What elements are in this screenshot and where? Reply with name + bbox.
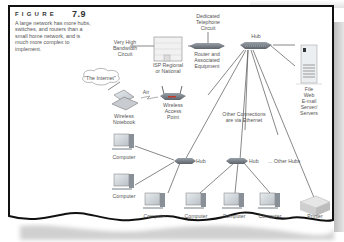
- main-hub-icon: [240, 42, 272, 49]
- internet-label: "The Internet": [80, 75, 120, 81]
- bandwidth-circuit-label: Very High Bandwidth Circuit: [108, 39, 142, 57]
- printer-label: Printer: [300, 213, 330, 219]
- router-label: Router and Associated Equipment: [186, 51, 228, 69]
- other-hubs-label: ... Other Hubs: [268, 158, 308, 164]
- other-connections-label: Other Connections are via Ethernet: [215, 111, 273, 123]
- wireless-ap-label: Wireless Access Point: [156, 102, 190, 120]
- computer-label: Computer: [106, 193, 142, 199]
- hub-main-label: Hub: [244, 33, 268, 39]
- paper-shadow: [20, 225, 334, 240]
- figure-label: FIGURE: [15, 11, 57, 17]
- figure-number: 7.9: [72, 9, 86, 19]
- wireless-notebook-label: Wireless Notebook: [106, 113, 142, 125]
- hub-right-icon: [226, 158, 248, 164]
- servers-label: File Web E-mail Server/ Servers: [294, 86, 324, 116]
- computer-label: Computer: [106, 154, 142, 160]
- air-label: Air: [140, 89, 152, 95]
- figure-caption: A large network has more hubs, switches,…: [15, 20, 91, 52]
- hub-left-icon: [174, 158, 196, 164]
- dedicated-circuit-label: Dedicated Telephone Circuit: [186, 13, 230, 31]
- computer-label: Computer: [137, 213, 173, 219]
- hub-right-label: Hub: [249, 158, 265, 164]
- hub-left-label: Hub: [196, 158, 212, 164]
- computer-label: Computer: [252, 213, 288, 219]
- isp-label: ISP Regional or National: [146, 62, 190, 74]
- computer-label: Computer: [216, 213, 252, 219]
- figure-page: FIGURE 7.9 A large network has more hubs…: [0, 0, 344, 242]
- isp-building-icon: [154, 37, 182, 61]
- computer-label: Computer: [178, 213, 214, 219]
- router-icon: [189, 43, 225, 49]
